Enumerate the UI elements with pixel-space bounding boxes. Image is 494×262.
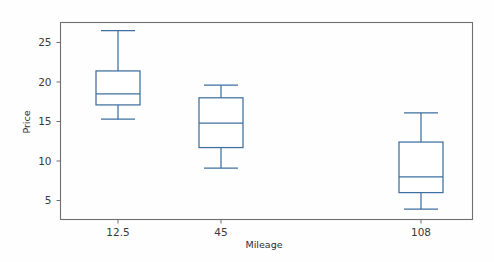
x-axis-title: Mileage: [245, 239, 282, 250]
x-axis-tick-label: 12.5: [106, 226, 129, 238]
boxplot-canvas: 252015105 12.545108 Price Mileage: [0, 0, 494, 262]
box-iqr: [96, 71, 140, 105]
y-axis-ticks: [57, 43, 61, 201]
box-iqr: [399, 142, 443, 193]
y-axis-tick-label: 15: [38, 115, 51, 127]
box-plot-series: [96, 31, 443, 210]
box-plot-group: [399, 113, 443, 209]
x-axis-tick-labels: 12.545108: [106, 226, 431, 238]
y-axis-tick-label: 10: [38, 155, 51, 167]
box-plot-group: [199, 85, 243, 168]
x-axis-tick-label: 45: [214, 226, 227, 238]
y-axis-tick-labels: 252015105: [38, 36, 51, 206]
y-axis-tick-label: 5: [45, 194, 52, 206]
x-axis-tick-label: 108: [411, 226, 431, 238]
y-axis-tick-label: 25: [38, 36, 51, 48]
y-axis-title: Price: [21, 110, 32, 133]
boxplot-figure: 252015105 12.545108 Price Mileage: [0, 0, 494, 262]
x-axis-ticks: [118, 220, 421, 224]
box-plot-group: [96, 31, 140, 119]
y-axis-tick-label: 20: [38, 76, 51, 88]
